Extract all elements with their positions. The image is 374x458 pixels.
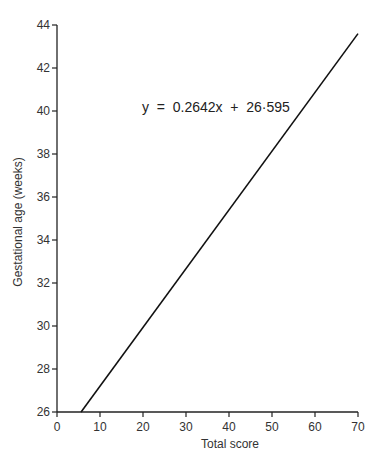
y-axis-title: Gestational age (weeks) xyxy=(11,157,25,286)
y-tick-label: 38 xyxy=(37,147,51,161)
x-tick-label: 30 xyxy=(179,420,193,434)
y-axis: 26283032343638404244 xyxy=(37,18,57,419)
regression-equation: y = 0.2642x + 26·595 xyxy=(142,99,290,115)
y-tick-label: 36 xyxy=(37,190,51,204)
y-tick-label: 26 xyxy=(37,405,51,419)
x-tick-label: 40 xyxy=(222,420,236,434)
x-tick-label: 60 xyxy=(308,420,322,434)
y-tick-label: 34 xyxy=(37,233,51,247)
x-tick-label: 10 xyxy=(93,420,107,434)
y-tick-label: 28 xyxy=(37,362,51,376)
y-tick-label: 42 xyxy=(37,61,51,75)
y-tick-label: 44 xyxy=(37,18,51,32)
y-tick-label: 30 xyxy=(37,319,51,333)
y-tick-label: 32 xyxy=(37,276,51,290)
x-tick-label: 50 xyxy=(265,420,279,434)
plot-area xyxy=(81,34,358,412)
regression-line xyxy=(81,34,358,412)
x-tick-label: 70 xyxy=(351,420,365,434)
x-axis: 010203040506070 xyxy=(54,412,365,434)
x-tick-label: 0 xyxy=(54,420,61,434)
x-tick-label: 20 xyxy=(136,420,150,434)
y-tick-label: 40 xyxy=(37,104,51,118)
x-axis-title: Total score xyxy=(201,437,259,451)
chart: 26283032343638404244 010203040506070 y =… xyxy=(0,0,374,458)
